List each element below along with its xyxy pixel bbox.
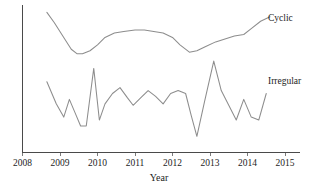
x-tick-label-2011: 2011 [126, 158, 145, 168]
x-axis-tick-labels: 2008 2009 2010 2011 2012 2013 2014 2015 [13, 158, 295, 168]
x-tick-label-2014: 2014 [238, 158, 257, 168]
x-tick-label-2012: 2012 [163, 158, 182, 168]
x-tick-label-2009: 2009 [51, 158, 70, 168]
series-line-cyclic [47, 12, 270, 53]
x-axis-title: Year [150, 172, 169, 183]
line-chart: 2008 2009 2010 2011 2012 2013 2014 2015 … [0, 0, 316, 195]
x-tick-label-2013: 2013 [201, 158, 220, 168]
x-tick-label-2015: 2015 [276, 158, 295, 168]
series-label-cyclic: Cyclic [268, 13, 293, 23]
x-tick-label-2008: 2008 [13, 158, 32, 168]
figure-container: 2008 2009 2010 2011 2012 2013 2014 2015 … [0, 0, 316, 195]
series-label-irregular: Irregular [268, 76, 302, 86]
x-tick-label-2010: 2010 [88, 158, 107, 168]
series-line-irregular [47, 61, 266, 136]
